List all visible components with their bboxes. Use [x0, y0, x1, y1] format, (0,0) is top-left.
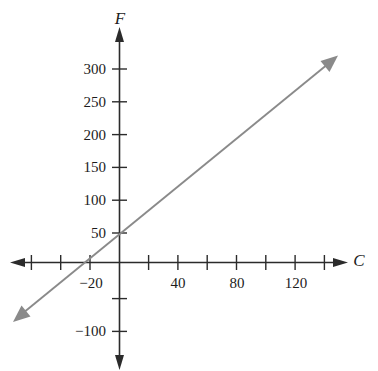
y-tick-label-300: 300 [84, 61, 107, 77]
y-tick-label-200: 200 [84, 127, 107, 143]
y-axis-arrow-up-icon [115, 27, 124, 42]
x-axis-arrow-left-icon [10, 258, 25, 267]
x-axis-group: −20 40 80 120 C [10, 251, 365, 291]
x-axis-title: C [353, 251, 365, 270]
x-tick-label-120: 120 [285, 275, 308, 291]
x-tick-label-neg20: −20 [79, 275, 102, 291]
x-tick-label-80: 80 [230, 275, 245, 291]
y-tick-label-150: 150 [84, 159, 107, 175]
y-axis-group: 300 250 200 150 100 50 −100 F [75, 9, 127, 370]
y-tick-label-100: 100 [84, 192, 107, 208]
y-axis-title: F [114, 9, 126, 28]
y-tick-label-neg100: −100 [75, 323, 106, 339]
chart-svg: 300 250 200 150 100 50 −100 F [0, 0, 378, 371]
y-axis-arrow-down-icon [115, 355, 124, 370]
x-axis-arrow-right-icon [333, 258, 348, 267]
x-tick-label-40: 40 [171, 275, 186, 291]
data-arrow-upper-right-icon [321, 56, 339, 73]
coordinate-plane-chart: 300 250 200 150 100 50 −100 F [0, 0, 378, 371]
y-tick-label-50: 50 [91, 225, 106, 241]
y-tick-label-250: 250 [84, 94, 107, 110]
